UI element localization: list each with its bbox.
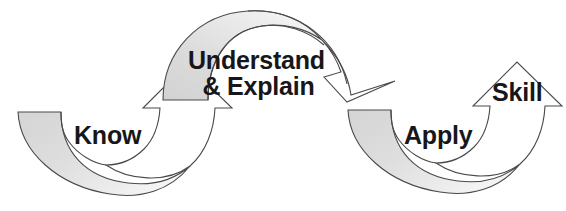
stage-label-apply: Apply xyxy=(404,122,472,148)
stage-label-understand-explain: Understand& Explain xyxy=(188,47,325,99)
flow-arrows-svg xyxy=(0,0,566,211)
stage-label-skill: Skill xyxy=(492,79,542,105)
learning-progression-diagram: Know Understand& Explain Apply Skill xyxy=(0,0,566,211)
stage-label-understand-line2: & Explain xyxy=(192,73,325,99)
stage-label-understand-line1: Understand xyxy=(188,46,325,74)
stage-label-know: Know xyxy=(74,122,141,148)
